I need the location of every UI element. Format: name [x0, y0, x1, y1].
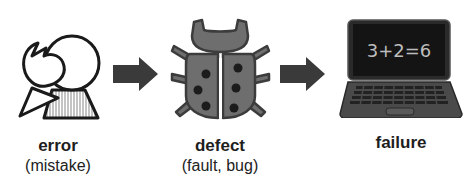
bug-icon: [168, 16, 273, 124]
stage-label-failure: failure: [331, 133, 471, 153]
laptop-screen-text: 3+2=6: [353, 40, 445, 61]
error-person-icon: [10, 18, 110, 123]
stage-sublabel-defect: (fault, bug): [150, 157, 290, 175]
stage-label-defect: defect: [150, 136, 290, 156]
stage-label-error: error: [0, 136, 128, 156]
stage-sublabel-error: (mistake): [0, 157, 128, 175]
arrow-right-icon: [113, 57, 158, 91]
laptop-icon: 3+2=6: [338, 18, 464, 118]
arrow-right-icon: [280, 57, 325, 91]
